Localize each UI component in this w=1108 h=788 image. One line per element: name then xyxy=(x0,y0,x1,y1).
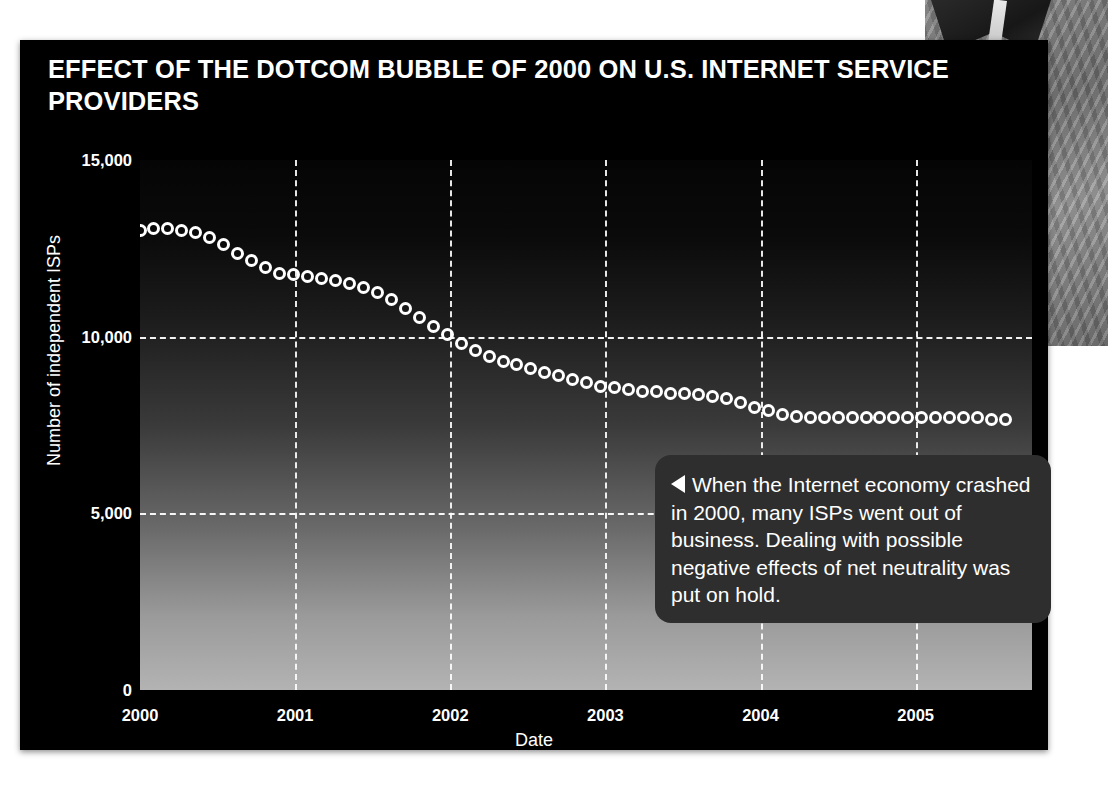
data-point xyxy=(860,411,873,424)
y-axis-tick-label: 15,000 xyxy=(82,151,132,170)
x-axis-tick-label: 2003 xyxy=(587,706,624,725)
data-point xyxy=(259,261,272,274)
data-point xyxy=(510,358,523,371)
data-point xyxy=(273,267,286,280)
data-point xyxy=(650,385,663,398)
x-axis-label: Date xyxy=(20,730,1048,751)
data-point xyxy=(790,410,803,423)
vertical-gridline xyxy=(295,160,297,690)
data-point xyxy=(413,311,426,324)
data-point xyxy=(371,286,384,299)
vertical-gridline xyxy=(605,160,607,690)
data-point xyxy=(231,247,244,260)
caption-text: When the Internet economy crashed in 200… xyxy=(671,473,1031,606)
data-point xyxy=(622,383,635,396)
data-point xyxy=(915,411,928,424)
x-axis-tick-label: 2002 xyxy=(432,706,469,725)
data-point xyxy=(692,388,705,401)
data-point xyxy=(901,411,914,424)
data-point xyxy=(594,380,607,393)
data-point xyxy=(469,344,482,357)
data-point xyxy=(706,390,719,403)
data-point xyxy=(538,366,551,379)
data-point xyxy=(455,337,468,350)
data-point xyxy=(245,254,258,267)
data-point xyxy=(301,270,314,283)
horizontal-gridline xyxy=(140,337,1032,339)
data-point xyxy=(524,362,537,375)
data-point xyxy=(287,268,300,281)
x-axis-tick-label: 2005 xyxy=(897,706,934,725)
chart-title: EFFECT OF THE DOTCOM BUBBLE OF 2000 ON U… xyxy=(48,54,978,118)
data-point xyxy=(887,411,900,424)
data-point xyxy=(818,411,831,424)
data-point xyxy=(608,381,621,394)
data-point xyxy=(315,272,328,285)
left-triangle-icon xyxy=(671,475,685,493)
y-axis-tick-label: 5,000 xyxy=(91,504,132,523)
chart-card: EFFECT OF THE DOTCOM BUBBLE OF 2000 ON U… xyxy=(20,40,1048,750)
data-point xyxy=(399,302,412,315)
data-point xyxy=(636,385,649,398)
x-axis-tick-label: 2001 xyxy=(277,706,314,725)
data-point xyxy=(357,281,370,294)
data-point xyxy=(175,224,188,237)
data-point xyxy=(566,373,579,386)
data-point xyxy=(161,222,174,235)
data-point xyxy=(678,387,691,400)
data-point xyxy=(441,328,454,341)
data-point xyxy=(999,413,1012,426)
data-point xyxy=(943,411,956,424)
data-point xyxy=(929,411,942,424)
data-point xyxy=(804,411,817,424)
data-point xyxy=(329,274,342,287)
data-point xyxy=(957,411,970,424)
data-point xyxy=(483,350,496,363)
x-axis-tick-label: 2000 xyxy=(122,706,159,725)
data-point xyxy=(873,411,886,424)
data-point xyxy=(846,411,859,424)
data-point xyxy=(140,224,147,237)
data-point xyxy=(762,404,775,417)
data-point xyxy=(427,320,440,333)
caption-callout: When the Internet economy crashed in 200… xyxy=(655,455,1051,623)
data-point xyxy=(343,277,356,290)
data-point xyxy=(720,392,733,405)
data-point xyxy=(664,387,677,400)
data-point xyxy=(189,226,202,239)
x-axis-tick-label: 2004 xyxy=(742,706,779,725)
data-point xyxy=(971,411,984,424)
data-point xyxy=(832,411,845,424)
data-point xyxy=(748,401,761,414)
y-axis-label: Number of independent ISPs xyxy=(44,221,65,481)
vertical-gridline xyxy=(450,160,452,690)
y-axis-tick-label: 10,000 xyxy=(82,327,132,346)
data-point xyxy=(734,396,747,409)
data-point xyxy=(580,376,593,389)
data-point xyxy=(497,355,510,368)
y-axis-tick-label: 0 xyxy=(123,681,132,700)
data-point xyxy=(217,238,230,251)
data-point xyxy=(147,222,160,235)
data-point xyxy=(985,413,998,426)
data-point xyxy=(203,231,216,244)
data-point xyxy=(385,293,398,306)
data-point xyxy=(552,369,565,382)
data-point xyxy=(776,408,789,421)
